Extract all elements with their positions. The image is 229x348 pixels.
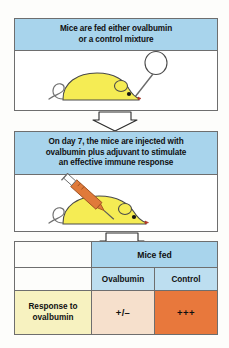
table-row: Response to ovalbumin +/– +++ <box>15 291 218 335</box>
table-cell-response-control: +++ <box>155 291 218 335</box>
mouse-tail-icon <box>49 208 64 223</box>
table-row-group-header: Mice fed <box>15 242 218 268</box>
row-label-line-2: ovalbumin <box>33 313 74 322</box>
mouse-eye-icon <box>127 92 131 96</box>
mouse-nose-icon <box>145 221 149 224</box>
step-2-caption-line-1: On day 7, the mice are injected with <box>48 137 183 146</box>
mouse-ear-icon <box>119 204 132 215</box>
table-row-label-response-to-ovalbumin: Response to ovalbumin <box>15 291 92 335</box>
mouse-body-icon <box>63 196 146 224</box>
step-1-caption: Mice are fed either ovalbumin or a contr… <box>15 19 217 51</box>
table-corner-blank-2 <box>15 268 92 291</box>
dropper-stem-icon <box>135 74 153 97</box>
step-2-caption-line-3: an effective immune response <box>59 158 174 167</box>
oral-tolerance-figure: Mice are fed either ovalbumin or a contr… <box>0 0 229 348</box>
table-corner-blank <box>15 242 92 268</box>
mouse-nose-icon <box>138 97 141 100</box>
step-2-caption-line-2: ovalbumin plus adjuvant to stimulate <box>46 148 187 157</box>
table-col-header-control: Control <box>155 268 218 291</box>
step-1-panel: Mice are fed either ovalbumin or a contr… <box>14 18 218 111</box>
dropper-bulb-icon <box>145 52 167 75</box>
mouse-injected-svg <box>15 173 219 233</box>
mouse-eye-icon <box>132 215 136 219</box>
results-table: Mice fed Ovalbumin Control Response to o… <box>14 241 218 335</box>
table-cell-response-ovalbumin: +/– <box>92 291 155 335</box>
step-1-caption-line-1: Mice are fed either ovalbumin <box>60 24 172 33</box>
mouse-tail-icon <box>49 84 64 99</box>
row-label-line-1: Response to <box>28 302 77 311</box>
table-col-header-ovalbumin: Ovalbumin <box>92 268 155 291</box>
step-2-caption: On day 7, the mice are injected with ova… <box>15 132 217 175</box>
mouse-ear-icon <box>115 81 128 92</box>
table-row-column-headers: Ovalbumin Control <box>15 268 218 291</box>
step-1-caption-line-2: or a control mixture <box>79 35 154 44</box>
arrow-step1-to-step2 <box>92 111 138 132</box>
down-arrow-icon <box>92 111 138 132</box>
mouse-fed-illustration <box>15 49 217 111</box>
step-2-panel: On day 7, the mice are injected with ova… <box>14 131 218 232</box>
table-group-header-mice-fed: Mice fed <box>92 242 218 268</box>
mouse-injected-illustration <box>15 173 217 233</box>
mouse-fed-svg <box>15 49 219 111</box>
